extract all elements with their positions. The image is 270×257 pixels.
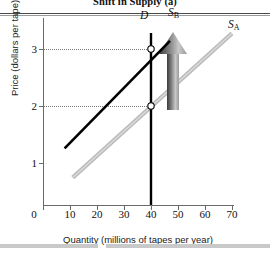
y-tick-label-2: 2 [32,101,38,112]
curve-supply-b [65,41,170,149]
curve-label-supply-a: SA [228,19,240,32]
title-divider-rule [0,13,270,14]
curve-label-supply-b-sub: B [174,11,179,20]
curve-label-supply-a-sub: A [234,23,240,32]
curve-label-demand: D [140,10,148,22]
footer-bar-right [106,244,270,248]
footer-bar-left [0,244,98,248]
y-tick-label-1: 1 [32,158,38,169]
plot-area: 3 2 1 0 10 20 30 40 50 60 70 [43,18,233,205]
curves-svg [43,18,243,218]
figure-container: Shift in Supply (a) 3 2 1 0 10 20 30 40 … [0,0,270,257]
marker-equilibrium-after [148,46,154,52]
y-axis-label: Price (dollars per tape) [9,0,20,96]
title-divider-rule-secondary [0,15,270,16]
figure-title-partial: Shift in Supply (a) [0,0,270,8]
marker-equilibrium-before [148,103,154,109]
y-tick-label-3: 3 [32,44,38,55]
curve-label-demand-text: D [140,9,148,21]
curve-label-supply-b: SB [168,7,179,20]
x-tick-label-0: 0 [31,209,37,220]
